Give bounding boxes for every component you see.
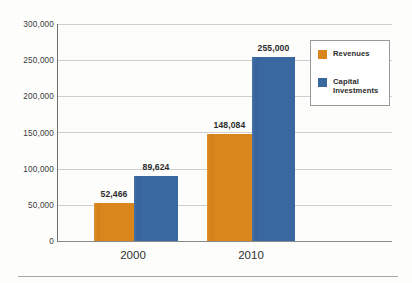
bar-value-2010-revenues: 148,084 [197, 120, 262, 130]
legend-label-capital-line2: Investments [333, 86, 378, 95]
y-tick-50000: 50,000 [2, 201, 54, 210]
y-tick-200000: 200,000 [2, 92, 54, 101]
y-axis-tick-labels: 300,000 250,000 200,000 150,000 100,000 … [0, 0, 54, 283]
gridline-baseline-0 [58, 241, 392, 242]
x-category-2010: 2010 [206, 249, 296, 261]
y-tick-300000: 300,000 [2, 20, 54, 29]
legend-item-capital-investments[interactable]: Capital Investments [318, 77, 378, 95]
gridline-300000 [58, 24, 392, 25]
chart-screenshot: 300,000 250,000 200,000 150,000 100,000 … [0, 0, 412, 283]
bar-value-2010-capital-investments: 255,000 [242, 43, 305, 53]
legend-swatch-revenues-icon [318, 50, 327, 59]
y-tick-250000: 250,000 [2, 56, 54, 65]
footer-divider [18, 276, 398, 277]
bar-2000-capital-investments[interactable] [134, 176, 178, 241]
bar-value-2000-capital-investments: 89,624 [126, 162, 186, 172]
legend-label-capital-investments: Capital Investments [333, 77, 378, 95]
legend-label-capital-line1: Capital [333, 77, 359, 86]
bar-2010-capital-investments[interactable] [252, 57, 295, 241]
legend-label-revenues: Revenues [333, 49, 370, 58]
bar-2010-revenues[interactable] [207, 134, 252, 241]
legend-item-revenues[interactable]: Revenues [318, 49, 370, 59]
legend-swatch-capital-investments-icon [318, 78, 327, 87]
x-category-2000: 2000 [88, 249, 178, 261]
bar-2000-revenues[interactable] [94, 203, 134, 241]
bar-value-2000-revenues: 52,466 [84, 189, 144, 199]
y-tick-0: 0 [2, 237, 54, 246]
chart-legend: Revenues Capital Investments [310, 40, 390, 106]
gridline-150000 [58, 132, 392, 133]
y-tick-150000: 150,000 [2, 129, 54, 138]
y-tick-100000: 100,000 [2, 165, 54, 174]
